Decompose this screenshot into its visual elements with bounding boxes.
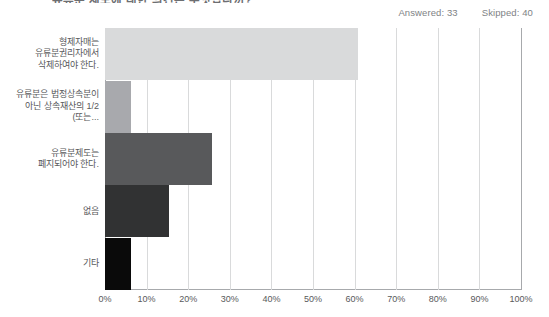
x-tick-label: 100%	[509, 294, 532, 304]
bar[interactable]	[105, 81, 131, 133]
page-title: 유류분 제도에 대한 의견은 무엇입니까?	[52, 0, 312, 3]
category-label: 없음	[0, 206, 99, 218]
bar[interactable]	[105, 238, 131, 290]
category-label: 기타	[0, 258, 99, 270]
gridline	[479, 28, 480, 290]
gridline	[396, 28, 397, 290]
bar[interactable]	[105, 185, 169, 237]
x-tick-label: 10%	[138, 294, 156, 304]
category-label: 유류분제도는 폐지되어야 한다.	[0, 148, 99, 171]
bar[interactable]	[105, 133, 212, 185]
gridline	[521, 28, 522, 290]
response-stats: Answered: 33 Skipped: 40	[398, 7, 533, 18]
category-label: 유류분은 법정상속분이 아닌 상속재산의 1/2 (또는...	[0, 89, 99, 124]
x-tick-label: 90%	[470, 294, 488, 304]
x-tick-label: 80%	[429, 294, 447, 304]
x-tick-label: 20%	[179, 294, 197, 304]
x-tick-label: 50%	[304, 294, 322, 304]
bar[interactable]	[105, 28, 358, 80]
skipped-count: Skipped: 40	[482, 7, 533, 18]
x-tick-label: 70%	[387, 294, 405, 304]
survey-bar-chart: 유류분 제도에 대한 의견은 무엇입니까? Answered: 33 Skipp…	[0, 0, 549, 317]
x-tick-label: 60%	[346, 294, 364, 304]
x-tick-label: 40%	[262, 294, 280, 304]
x-tick-label: 0%	[98, 294, 111, 304]
category-label: 형제자매는 유류분권리자에서 삭제하여야 한다.	[0, 37, 99, 72]
gridline	[438, 28, 439, 290]
answered-count: Answered: 33	[398, 7, 457, 18]
x-tick-label: 30%	[221, 294, 239, 304]
